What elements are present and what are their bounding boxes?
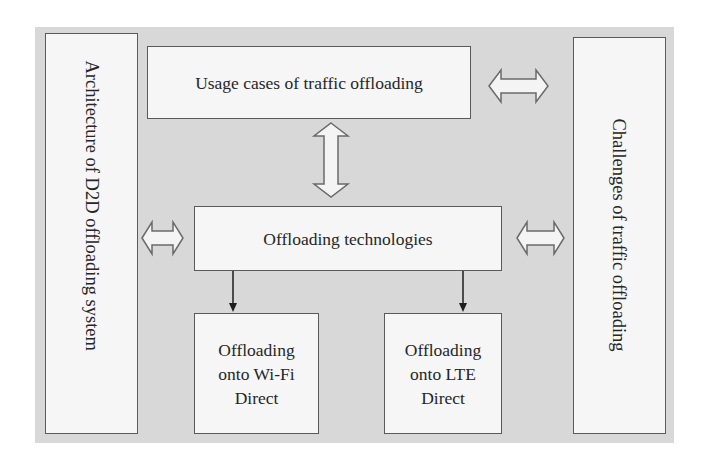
wifi-direct-label-line2: onto Wi-Fi [218, 362, 294, 386]
lte-direct-label-line1: Offloading [405, 338, 481, 362]
usage-cases-label: Usage cases of traffic offloading [195, 71, 423, 95]
wifi-direct-box: Offloading onto Wi-Fi Direct [194, 313, 319, 434]
lte-direct-box: Offloading onto LTE Direct [384, 313, 502, 434]
wifi-direct-label-line3: Direct [235, 386, 279, 410]
wifi-direct-label-line1: Offloading [218, 338, 294, 362]
lte-direct-label-line3: Direct [421, 386, 465, 410]
technologies-label: Offloading technologies [263, 227, 432, 251]
technologies-box: Offloading technologies [194, 206, 502, 271]
challenges-label: Challenges of traffic offloading [607, 100, 631, 370]
architecture-label: Architecture of D2D offloading system [80, 61, 104, 406]
lte-direct-label-line2: onto LTE [410, 362, 476, 386]
usage-cases-box: Usage cases of traffic offloading [147, 46, 471, 119]
